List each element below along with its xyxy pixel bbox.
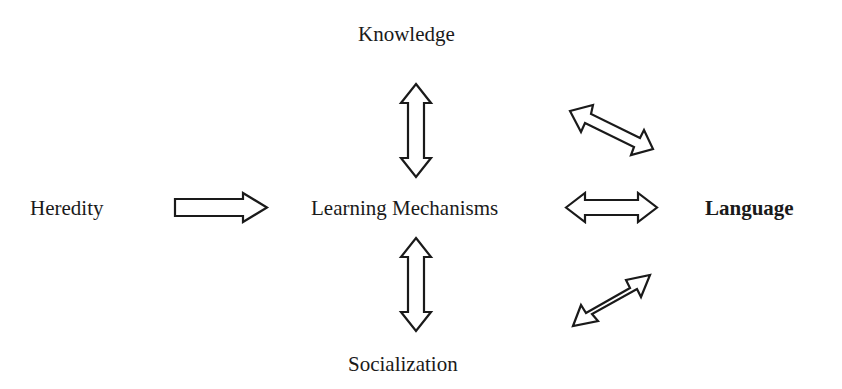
double-arrow-vertical-icon	[401, 84, 431, 177]
double-arrow-vertical-icon	[401, 238, 431, 331]
double-arrow-horizontal-icon	[566, 193, 657, 222]
double-arrow-diagonal-icon	[570, 105, 653, 155]
arrows-layer	[0, 0, 842, 389]
double-arrow-diagonal-icon	[573, 275, 650, 326]
arrow-right-icon	[175, 193, 267, 222]
